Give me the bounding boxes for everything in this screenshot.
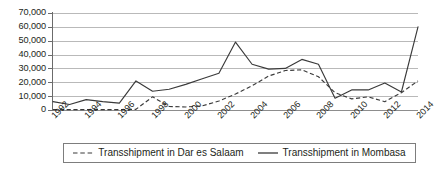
x-axis-tick-label: 2002 <box>216 100 237 121</box>
y-axis-tick <box>48 82 53 83</box>
y-axis-tick <box>48 96 53 97</box>
y-axis-tick <box>48 27 53 28</box>
legend-label-dar-es-salaam: Transshipment in Dar es Salaam <box>98 148 243 158</box>
x-axis-tick-label: 2008 <box>315 100 336 121</box>
x-axis-tick-label: 2012 <box>382 100 403 121</box>
y-axis-tick <box>48 55 53 56</box>
x-axis-tick-label: 2006 <box>282 100 303 121</box>
x-axis-tick-label: 2000 <box>183 100 204 121</box>
legend-item-mombasa: Transshipment in Mombasa <box>258 148 406 158</box>
y-axis-tick <box>48 110 53 111</box>
legend-item-dar-es-salaam: Transshipment in Dar es Salaam <box>73 148 243 158</box>
dashed-line-swatch-icon <box>73 149 93 157</box>
x-axis-tick-label: 1992 <box>50 100 71 121</box>
legend-label-mombasa: Transshipment in Mombasa <box>283 148 406 158</box>
x-axis-tick-label: 2014 <box>415 100 436 121</box>
x-axis-tick-label: 1998 <box>150 100 171 121</box>
x-axis-tick-label: 2010 <box>349 100 370 121</box>
x-axis-tick-label: 2004 <box>249 100 270 121</box>
x-axis-tick-label: 1994 <box>83 100 104 121</box>
y-axis-tick <box>48 13 53 14</box>
x-axis-tick-label: 1996 <box>116 100 137 121</box>
y-axis-tick <box>48 41 53 42</box>
y-axis-tick <box>48 68 53 69</box>
chart-legend: Transshipment in Dar es Salaam Transship… <box>63 143 416 163</box>
solid-line-swatch-icon <box>258 149 278 157</box>
